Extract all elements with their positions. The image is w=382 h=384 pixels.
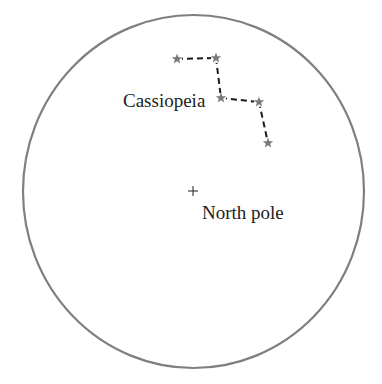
sky-diagram: Cassiopeia North pole: [0, 0, 382, 384]
constellation-dashed-line: [177, 58, 216, 59]
constellation-dashed-line: [221, 98, 259, 102]
constellation-dashed-line: [259, 102, 268, 143]
north-pole-plus-icon: [188, 186, 198, 196]
constellation-label: Cassiopeia: [123, 90, 206, 111]
north-pole-label: North pole: [202, 202, 284, 223]
constellation-dashed-line: [216, 58, 221, 98]
